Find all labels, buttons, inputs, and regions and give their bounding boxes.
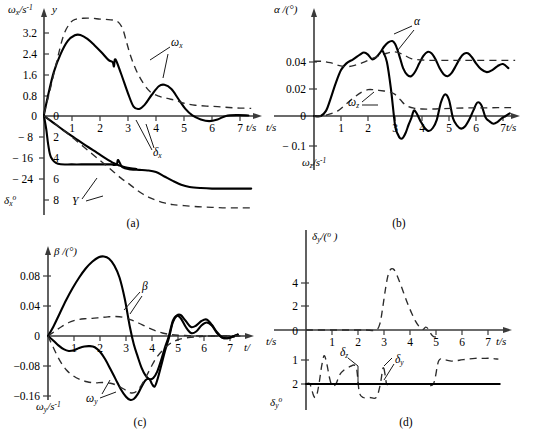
svg-text:− 24: − 24	[12, 173, 33, 185]
axis-label-omega-x-a: ωx/s-1	[8, 3, 33, 17]
curve-label-omega-x-a: ωx	[171, 36, 183, 50]
svg-text:6: 6	[459, 336, 465, 348]
curve-β	[48, 256, 238, 379]
curve-label-Y-a: Y	[72, 195, 80, 207]
svg-text:7: 7	[485, 336, 491, 348]
axis-label-beta-c: β /(°)	[53, 245, 77, 258]
curve-label-delta-y-d: δy	[395, 353, 404, 367]
curve-δᵧ	[306, 269, 439, 338]
leader-lines-d	[348, 358, 394, 384]
curve-ωᵧ	[48, 315, 238, 400]
svg-text:3: 3	[125, 122, 131, 134]
svg-text:7: 7	[227, 342, 233, 354]
ticks-d	[301, 283, 488, 384]
svg-text:1.6: 1.6	[23, 69, 38, 81]
svg-text:1: 1	[338, 122, 344, 134]
svg-text:6: 6	[209, 122, 215, 134]
svg-text:2: 2	[292, 300, 298, 312]
curves-a	[44, 18, 251, 208]
svg-text:2: 2	[355, 336, 361, 348]
curve-label-delta-x-a: δx	[153, 146, 162, 160]
subplot-d: δy/(o ) δyo t/s t/s 4 2 0 1 2 1 2 3 4 5 …	[266, 230, 533, 439]
curve-α	[314, 41, 508, 116]
svg-text:1: 1	[69, 122, 75, 134]
x-tick-labels-d: 1 2 3 4 5 6 7	[329, 336, 491, 348]
svg-text:3: 3	[123, 342, 129, 354]
svg-text:− 16: − 16	[12, 152, 33, 164]
curves-c	[48, 256, 240, 400]
subplot-c: β /(°) ωy/s-1 t/ 0.08 0.04 0 −0.08 −0.16…	[0, 230, 266, 439]
y-tick-labels-lower-a: − 8 − 16 − 24	[12, 131, 33, 185]
svg-text:0.04: 0.04	[286, 56, 306, 68]
axes-c	[45, 246, 254, 400]
y-tick-labels-c: 0.08 0.04 0 −0.08 −0.16	[13, 270, 40, 402]
svg-text:0: 0	[34, 330, 40, 342]
svg-text:5: 5	[181, 122, 187, 134]
y-tick-labels-upper-a: 3.2 2.4 1.6 0.8 0	[23, 27, 38, 122]
svg-text:3: 3	[381, 336, 387, 348]
leader-lines-c	[100, 292, 142, 398]
svg-text:6: 6	[201, 342, 207, 354]
curves-d	[306, 269, 500, 399]
y-tick-labels-lower-d: 1 2	[292, 354, 298, 390]
subplot-b: α /(°) ωz/s-1 t/s t/s 0.04 0.02 0 − 0.1 …	[266, 0, 533, 230]
curve-label-alpha-b: α	[414, 15, 421, 27]
y-tick-labels-upper-d: 4 2 0	[292, 277, 298, 337]
curve-δₓ	[44, 116, 251, 189]
svg-text:2: 2	[53, 131, 59, 143]
curve-label-omega-b: ωz	[348, 96, 359, 110]
x-tick-labels-a: 1 2 3 4 5 6 7	[69, 122, 243, 134]
svg-text:− 8: − 8	[18, 131, 33, 143]
axis-label-t-left-b: t/s	[266, 121, 276, 133]
svg-text:2: 2	[365, 122, 371, 134]
svg-text:−0.16: −0.16	[13, 390, 40, 402]
svg-text:4: 4	[407, 336, 413, 348]
axis-label-omega-b: ωz/s-1	[302, 156, 326, 170]
svg-text:5: 5	[175, 342, 181, 354]
svg-text:5: 5	[446, 122, 452, 134]
svg-text:1: 1	[292, 354, 298, 366]
svg-text:2: 2	[292, 378, 298, 390]
curve-label-delta-z-d: δz	[340, 346, 348, 360]
svg-text:1: 1	[329, 336, 335, 348]
svg-text:0: 0	[31, 110, 37, 122]
svg-text:7: 7	[500, 122, 506, 134]
axis-label-delta-y-lower-d: δyo	[270, 395, 282, 410]
svg-text:0: 0	[53, 110, 59, 122]
svg-text:2: 2	[97, 122, 103, 134]
axis-label-t-b: t/s	[506, 121, 516, 133]
caption-a: (a)	[127, 217, 140, 230]
curve-label-beta-c: β	[141, 280, 148, 293]
svg-text:4: 4	[292, 277, 298, 289]
svg-text:0.04: 0.04	[20, 300, 40, 312]
axes-a	[41, 8, 262, 215]
svg-text:0.02: 0.02	[286, 83, 306, 95]
svg-text:0.8: 0.8	[23, 90, 38, 102]
curve-ωₓ	[44, 35, 248, 122]
svg-text:6: 6	[473, 122, 479, 134]
svg-text:0.08: 0.08	[20, 270, 40, 282]
subplot-a: ωx/s-1 y δxo t/s 3.2 2.4 1.6 0.8 0 − 8 −…	[0, 0, 266, 230]
caption-b: (b)	[392, 217, 406, 230]
curves-b	[314, 41, 515, 139]
svg-text:6: 6	[53, 173, 59, 185]
svg-text:3.2: 3.2	[23, 27, 38, 39]
svg-text:8: 8	[53, 194, 59, 206]
curve-label-omega-y-c: ωy	[86, 392, 98, 406]
y-tick-labels-b: 0.04 0.02 0 − 0.1	[282, 56, 306, 152]
svg-text:4: 4	[153, 122, 159, 134]
caption-d: (d)	[399, 416, 413, 429]
axis-label-t-c: t/	[244, 341, 251, 353]
curve-δᵩ-lower	[306, 356, 384, 399]
svg-text:4: 4	[149, 342, 155, 354]
svg-text:7: 7	[237, 122, 243, 134]
svg-text:− 0.1: − 0.1	[282, 140, 306, 152]
axis-label-y-a: y	[51, 3, 57, 15]
axis-label-omega-y-c: ωy/s-1	[36, 400, 61, 414]
svg-text:1: 1	[71, 342, 77, 354]
axis-label-alpha-b: α /(°)	[274, 3, 298, 16]
axis-label-t-d: t/s	[496, 335, 506, 347]
svg-text:−0.08: −0.08	[13, 360, 40, 372]
axis-label-delta-y-d: δy/(o )	[312, 230, 338, 244]
caption-c: (c)	[134, 416, 147, 429]
